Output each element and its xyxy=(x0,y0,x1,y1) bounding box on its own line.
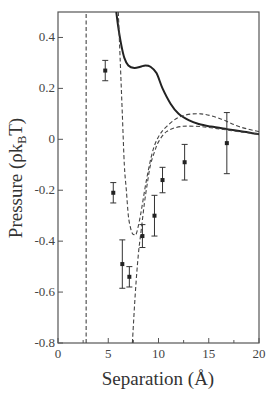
data-point xyxy=(151,195,157,236)
square-marker xyxy=(111,191,115,195)
plot-frame xyxy=(58,12,259,343)
dashed-curve-steep xyxy=(132,126,259,343)
dashed-curve-with-minimum xyxy=(118,12,259,235)
x-tick-label: 15 xyxy=(202,346,215,361)
y-axis-ticks: -0.8-0.6-0.4-0.200.20.4 xyxy=(34,29,63,350)
square-marker xyxy=(140,234,144,238)
square-marker xyxy=(120,262,124,266)
square-marker xyxy=(152,214,156,218)
solid-curve xyxy=(116,12,259,134)
plot-border xyxy=(58,12,259,343)
y-tick-label: -0.6 xyxy=(34,284,55,299)
y-tick-label: 0.4 xyxy=(39,29,56,44)
data-point xyxy=(182,144,188,180)
x-tick-label: 20 xyxy=(253,346,266,361)
square-marker xyxy=(183,160,187,164)
y-axis-title: Pressure (ρkBT) xyxy=(5,118,29,238)
y-tick-label: -0.4 xyxy=(34,233,55,248)
x-tick-label: 5 xyxy=(105,346,112,361)
y-tick-label: -0.8 xyxy=(34,335,55,350)
y-tick-label: -0.2 xyxy=(34,182,55,197)
data-point xyxy=(126,267,132,287)
square-marker xyxy=(103,69,107,73)
x-axis-title: Separation (Å) xyxy=(102,368,214,390)
data-point xyxy=(102,60,108,80)
y-tick-label: 0.2 xyxy=(39,80,55,95)
y-tick-label: 0 xyxy=(49,131,56,146)
square-marker xyxy=(127,275,131,279)
x-tick-label: 0 xyxy=(55,346,62,361)
x-tick-label: 10 xyxy=(152,346,165,361)
data-point xyxy=(224,113,230,174)
data-point xyxy=(160,167,166,192)
square-marker xyxy=(225,141,229,145)
square-marker xyxy=(161,178,165,182)
data-point xyxy=(119,240,125,288)
pressure-chart: 05101520 -0.8-0.6-0.4-0.200.20.4 Separat… xyxy=(0,0,276,396)
data-point xyxy=(110,183,116,203)
plot-curves xyxy=(86,12,259,343)
